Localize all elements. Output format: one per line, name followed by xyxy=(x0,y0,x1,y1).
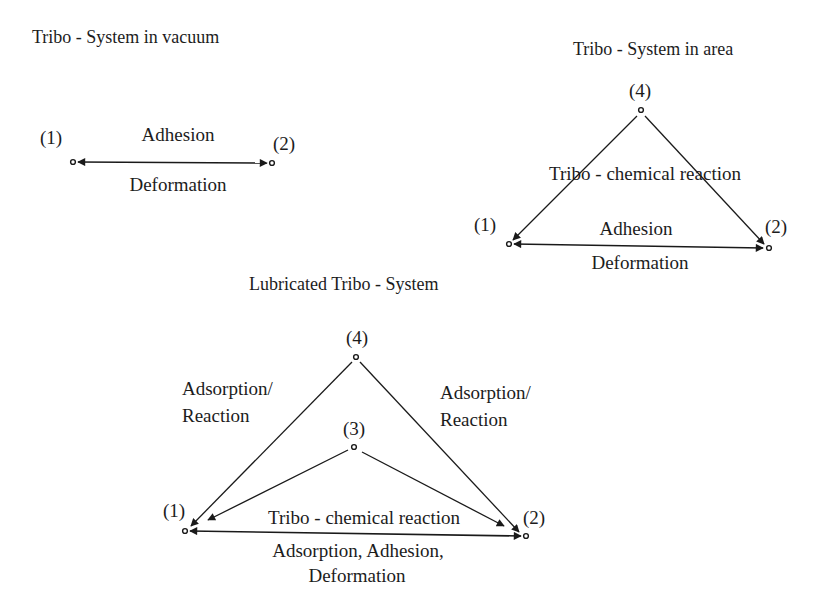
lub-edge-bottom-label-2: Deformation xyxy=(308,565,405,587)
lub-node-3-icon xyxy=(352,445,357,450)
vacuum-edge-top-label: Adhesion xyxy=(142,124,215,146)
area-middle-label: Tribo - chemical reaction xyxy=(549,163,741,185)
lubricated-title: Lubricated Tribo - System xyxy=(249,273,439,295)
lub-left-side-label-2: Reaction xyxy=(182,405,250,427)
lub-node-2-label: (2) xyxy=(523,507,545,529)
area-node-4-icon xyxy=(639,108,644,113)
area-node-2-icon xyxy=(767,246,772,251)
area-node-4-label: (4) xyxy=(629,80,651,102)
lub-node-1-icon xyxy=(183,529,188,534)
vacuum-node-1-label: (1) xyxy=(40,127,62,149)
area-title: Tribo - System in area xyxy=(573,38,733,60)
lub-node-2-icon xyxy=(524,534,529,539)
lub-edge-1-2 xyxy=(190,531,521,536)
lub-middle-label: Tribo - chemical reaction xyxy=(268,507,460,529)
lub-right-side-label-1: Adsorption/ xyxy=(440,382,531,404)
area-edge-top-label: Adhesion xyxy=(600,218,673,240)
vacuum-edge-bottom-label: Deformation xyxy=(129,174,226,196)
lub-right-side-label-2: Reaction xyxy=(440,409,508,431)
vacuum-node-1-icon xyxy=(71,160,76,165)
area-node-2-label: (2) xyxy=(765,216,787,238)
vacuum-node-2-label: (2) xyxy=(273,133,295,155)
area-edge-1-2 xyxy=(514,244,763,248)
lub-edge-bottom-label-1: Adsorption, Adhesion, xyxy=(272,540,444,562)
area-node-1-label: (1) xyxy=(474,214,496,236)
lub-node-4-icon xyxy=(354,355,359,360)
lub-node-3-label: (3) xyxy=(343,418,365,440)
area-node-1-icon xyxy=(507,242,512,247)
lub-node-4-label: (4) xyxy=(346,327,368,349)
lub-left-side-label-1: Adsorption/ xyxy=(182,378,273,400)
vacuum-title: Tribo - System in vacuum xyxy=(32,26,219,48)
vacuum-node-2-icon xyxy=(270,161,275,166)
lub-node-1-label: (1) xyxy=(163,500,185,522)
vacuum-edge-1-2 xyxy=(78,162,267,163)
area-edge-bottom-label: Deformation xyxy=(591,252,688,274)
vacuum-diagram xyxy=(71,160,275,166)
